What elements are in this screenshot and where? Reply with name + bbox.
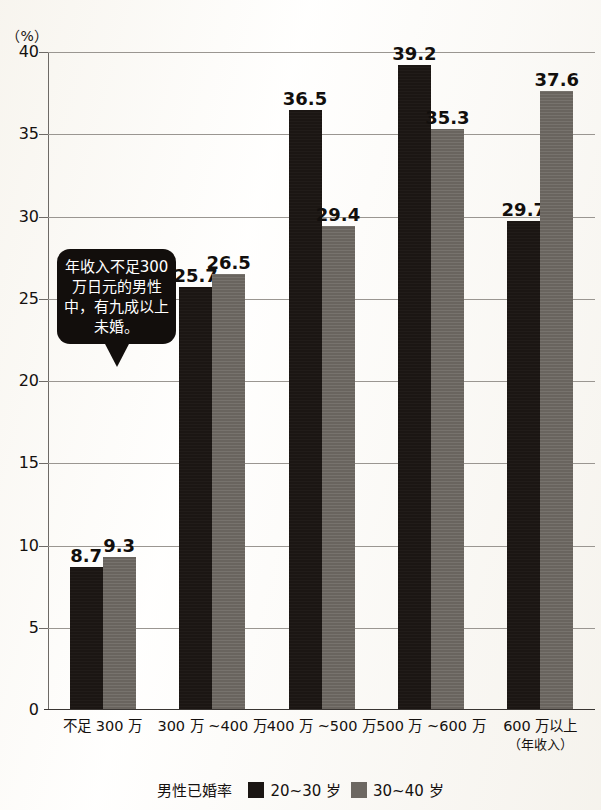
y-axis-tick-mark [39, 134, 48, 135]
bar[interactable]: 37.6 [540, 91, 573, 710]
y-axis-tick-mark [39, 52, 48, 53]
y-axis-tick-mark [39, 628, 48, 629]
legend-item-label: 20~30 岁 [270, 779, 341, 800]
y-axis-tick-label: 25 [5, 291, 39, 307]
bar[interactable]: 26.5 [212, 274, 245, 710]
x-axis-category-label: 不足 300 万 [48, 716, 157, 736]
legend-swatch-icon [248, 782, 264, 798]
bar[interactable]: 25.7 [179, 287, 212, 710]
legend-item[interactable]: 30~40 岁 [351, 779, 444, 800]
legend-item[interactable]: 20~30 岁 [248, 779, 341, 800]
bar-value-label: 26.5 [206, 253, 250, 273]
x-axis-line [44, 709, 595, 711]
bar[interactable]: 35.3 [431, 129, 464, 710]
y-axis-tick-label: 40 [5, 44, 39, 60]
y-axis-tick-label: 0 [5, 702, 39, 718]
y-axis-tick-labels: 4035302520151050 [0, 52, 39, 710]
bar[interactable]: 29.4 [322, 226, 355, 710]
legend-item-label: 30~40 岁 [373, 779, 444, 800]
bar[interactable]: 8.7 [70, 567, 103, 710]
x-axis-category-label: 500 万 ~600 万 [376, 716, 485, 736]
x-axis-category-label: 600 万以上（年收入） [486, 716, 595, 754]
legend-title: 男性已婚率 [157, 779, 232, 800]
bar-value-label: 29.4 [316, 205, 360, 225]
bar[interactable]: 39.2 [398, 65, 431, 710]
bar-value-label: 37.6 [535, 70, 579, 90]
chart-page: （%） 4035302520151050 8.79.325.726.536.52… [0, 0, 601, 810]
x-axis-category-labels: 不足 300 万300 万 ~400 万400 万 ~500 万500 万 ~6… [48, 716, 595, 772]
bar[interactable]: 29.7 [507, 221, 540, 710]
y-axis-tick-label: 15 [5, 455, 39, 471]
bar-group: 25.726.5 [179, 52, 245, 710]
chart-legend: 男性已婚率 20~30 岁30~40 岁 [0, 779, 601, 800]
plot-area: 8.79.325.726.536.529.439.235.329.737.6 [48, 52, 595, 710]
bar[interactable]: 36.5 [289, 110, 322, 710]
y-axis-tick-label: 10 [5, 538, 39, 554]
x-axis-label-main: 500 万 ~600 万 [376, 718, 485, 734]
x-axis-label-main: 300 万 ~400 万 [157, 718, 266, 734]
y-axis-tick-label: 20 [5, 373, 39, 389]
bar-value-label: 8.7 [70, 546, 102, 566]
x-axis-label-sub: （年收入） [486, 736, 595, 754]
legend-swatch-icon [351, 782, 367, 798]
y-axis-tick-mark [39, 546, 48, 547]
callout-text: 年收入不足300万日元的男性中，有九成以上未婚。 [57, 249, 176, 344]
y-axis-tick-label: 35 [5, 126, 39, 142]
y-axis-tick-label: 5 [5, 620, 39, 636]
bar[interactable]: 9.3 [103, 557, 136, 710]
x-axis-category-label: 400 万 ~500 万 [267, 716, 376, 736]
y-axis-tick-mark [39, 299, 48, 300]
bar-group: 36.529.4 [289, 52, 355, 710]
y-axis-tick-mark [39, 217, 48, 218]
x-axis-label-main: 400 万 ~500 万 [267, 718, 376, 734]
y-axis-tick-mark [39, 463, 48, 464]
bar-value-label: 36.5 [283, 89, 327, 109]
bar-value-label: 35.3 [425, 108, 469, 128]
bar-value-label: 9.3 [103, 536, 135, 556]
x-axis-category-label: 300 万 ~400 万 [157, 716, 266, 736]
y-axis-tick-mark [39, 381, 48, 382]
x-axis-label-main: 不足 300 万 [63, 718, 142, 734]
callout-pointer-icon [104, 342, 130, 367]
x-axis-label-main: 600 万以上 [503, 718, 577, 734]
bar-value-label: 39.2 [392, 44, 436, 64]
bar-group: 8.79.3 [70, 52, 136, 710]
y-axis-tick-label: 30 [5, 209, 39, 225]
bar-group: 29.737.6 [507, 52, 573, 710]
callout-annotation: 年收入不足300万日元的男性中，有九成以上未婚。 [57, 249, 176, 344]
bar-group: 39.235.3 [398, 52, 464, 710]
